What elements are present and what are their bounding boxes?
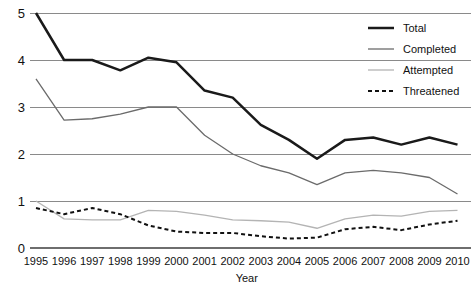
series-line-threatened <box>36 208 458 239</box>
series-lines <box>36 13 458 239</box>
x-tick-label: 1996 <box>52 255 76 267</box>
x-tick-label: 2002 <box>220 255 244 267</box>
x-tick-label: 2000 <box>164 255 188 267</box>
x-tick-label: 2010 <box>445 255 469 267</box>
series-line-completed <box>36 79 458 194</box>
x-tick-label: 2004 <box>277 255 301 267</box>
legend-label-completed: Completed <box>403 43 456 55</box>
x-tick-label: 2003 <box>249 255 273 267</box>
y-tick-label: 5 <box>18 6 25 21</box>
x-tick-label: 1995 <box>24 255 48 267</box>
x-tick-label: 2007 <box>361 255 385 267</box>
y-axis-tick-labels: 012345 <box>18 6 25 256</box>
chart-plot-area: 012345 199519961997199819992000200120022… <box>0 0 473 288</box>
legend-label-attempted: Attempted <box>403 64 453 76</box>
y-tick-label: 2 <box>18 147 25 162</box>
x-tick-label: 1997 <box>80 255 104 267</box>
x-tick-label: 2005 <box>305 255 329 267</box>
y-tick-label: 4 <box>18 53 25 68</box>
x-axis-tick-labels: 1995199619971998199920002001200220032004… <box>24 255 470 267</box>
x-axis-title-label: Year <box>236 272 259 284</box>
y-tick-label: 1 <box>18 194 25 209</box>
line-chart: 012345 199519961997199819992000200120022… <box>0 0 473 288</box>
x-tick-label: 2008 <box>389 255 413 267</box>
legend-label-total: Total <box>403 22 426 34</box>
x-tick-label: 2006 <box>333 255 357 267</box>
x-tick-label: 2001 <box>192 255 216 267</box>
x-tick-label: 1999 <box>136 255 160 267</box>
legend-label-threatened: Threatened <box>403 85 459 97</box>
series-line-total <box>36 13 458 159</box>
y-tick-label: 0 <box>18 241 25 256</box>
x-axis-title: Year <box>236 272 259 284</box>
x-tick-label: 1998 <box>108 255 132 267</box>
series-line-attempted <box>36 201 458 228</box>
x-tick-label: 2009 <box>417 255 441 267</box>
y-tick-label: 3 <box>18 100 25 115</box>
